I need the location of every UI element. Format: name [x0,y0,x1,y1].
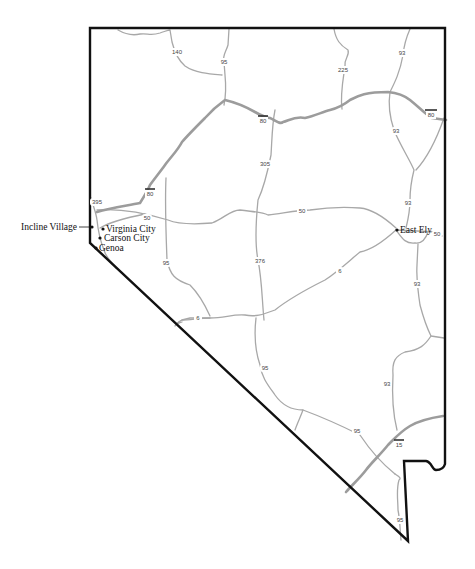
shield-50-east: 50 [432,230,442,238]
svg-text:East Ely: East Ely [400,225,432,235]
shield-80-east: 80 [425,110,437,119]
road-93-north [390,29,410,92]
svg-text:80: 80 [260,118,267,124]
shield-93-wells: 93 [391,127,401,135]
interstate-15 [346,416,443,492]
svg-text:50: 50 [144,215,151,221]
svg-text:93: 93 [405,200,412,206]
road-93-south [417,244,444,338]
svg-text:Incline Village: Incline Village [21,222,77,232]
svg-text:95: 95 [354,428,361,434]
city-incline-village[interactable]: Incline Village [21,222,94,232]
shield-95-fallon: 95 [161,259,171,267]
shield-95-north: 95 [219,58,229,66]
shield-376: 376 [253,257,267,265]
road-alt-93 [416,118,444,170]
svg-text:80: 80 [428,112,435,118]
shield-95-tonopah: 95 [260,364,270,372]
svg-text:395: 395 [92,199,103,205]
roads [91,29,444,540]
svg-text:95: 95 [163,260,170,266]
shield-50-west: 50 [142,214,152,222]
shield-15: 15 [394,440,404,449]
svg-text:95: 95 [397,517,404,523]
svg-text:50: 50 [299,208,306,214]
svg-text:Carson City: Carson City [104,233,150,243]
city-genoa[interactable]: Genoa [94,243,124,253]
svg-text:225: 225 [338,67,349,73]
svg-text:Genoa: Genoa [99,243,125,253]
shield-6-west: 6 [194,314,202,322]
shield-93-north: 93 [397,49,407,57]
road-95-south-central [255,318,395,474]
road-branch [295,410,303,430]
shield-6-east: 6 [336,267,344,275]
svg-text:93: 93 [399,50,406,56]
road-93-south-b [392,336,431,430]
road-95-north [223,29,229,105]
svg-text:93: 93 [414,281,421,287]
svg-text:305: 305 [260,161,271,167]
road-93-wells [389,92,414,228]
svg-text:95: 95 [221,59,228,65]
shield-50-central: 50 [297,207,307,215]
svg-text:95: 95 [262,365,269,371]
svg-text:80: 80 [147,191,154,197]
shield-95-south: 95 [395,516,405,524]
svg-text:15: 15 [396,442,403,448]
shield-395: 395 [90,198,104,206]
svg-text:93: 93 [393,128,400,134]
shield-95-beatty: 95 [352,427,362,435]
road-95-central [166,178,210,316]
shield-80-west: 80 [145,189,155,198]
city-carson-city[interactable]: Carson City [98,233,150,243]
shield-80-central: 80 [258,116,268,125]
shield-140: 140 [170,48,184,56]
city-east-ely[interactable]: East Ely [395,225,432,235]
state-border [90,28,445,541]
svg-text:376: 376 [255,258,266,264]
road-6 [178,230,396,323]
shield-225: 225 [336,66,350,74]
nevada-map: 140 95 225 93 80 80 80 93 305 395 50 50 … [0,0,475,569]
shield-305: 305 [258,160,272,168]
shield-93-ely-south: 93 [412,280,422,288]
shield-93-south: 93 [382,380,392,388]
shield-93-ely-north: 93 [403,199,413,207]
route-shields: 140 95 225 93 80 80 80 93 305 395 50 50 … [90,48,442,524]
svg-text:50: 50 [434,231,441,237]
svg-text:140: 140 [172,49,183,55]
svg-text:93: 93 [384,381,391,387]
